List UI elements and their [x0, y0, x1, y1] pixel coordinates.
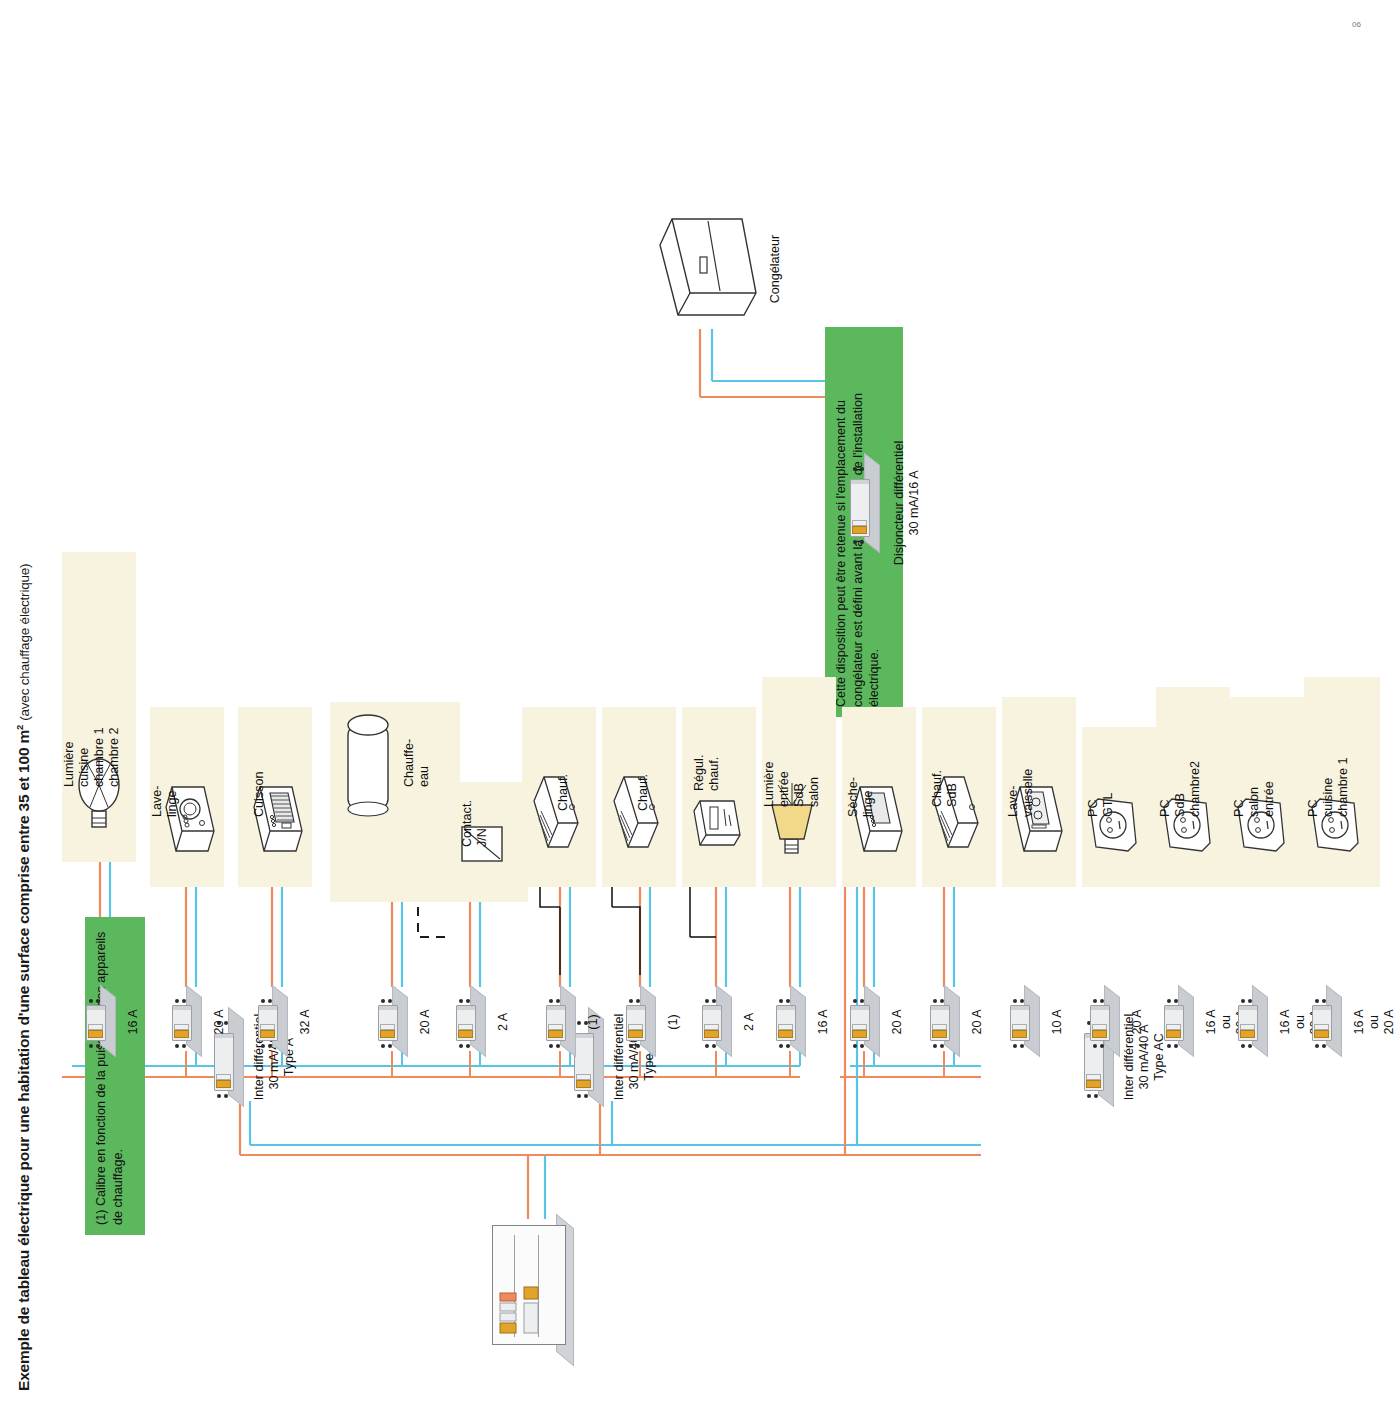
- breaker-contacteur-jn[interactable]: [454, 993, 488, 1051]
- device-lever[interactable]: [216, 1080, 231, 1088]
- device-test-button[interactable]: [1086, 1074, 1101, 1080]
- terminal: [1322, 999, 1326, 1003]
- device-handle[interactable]: [1166, 1024, 1181, 1030]
- device-lever[interactable]: [576, 1080, 591, 1088]
- terminal: [89, 999, 93, 1003]
- device-lever[interactable]: [628, 1030, 643, 1038]
- breaker-lumiere-entree[interactable]: [774, 993, 808, 1051]
- label-c15: PC salon entrée: [1232, 657, 1277, 817]
- device-lever[interactable]: [1314, 1030, 1329, 1038]
- device-handle[interactable]: [88, 1024, 103, 1030]
- breaker-pc-gtl[interactable]: [1088, 993, 1122, 1051]
- device-lever[interactable]: [1092, 1030, 1107, 1038]
- device-handle[interactable]: [704, 1024, 719, 1030]
- terminal: [853, 1044, 857, 1048]
- terminal: [1167, 999, 1171, 1003]
- device-handle[interactable]: [778, 1024, 793, 1030]
- terminal: [1315, 1044, 1319, 1048]
- device-lever[interactable]: [852, 526, 867, 534]
- terminal: [549, 999, 553, 1003]
- device-handle[interactable]: [458, 1024, 473, 1030]
- device-lever[interactable]: [174, 1030, 189, 1038]
- amp-label-c12: 10 A: [1050, 977, 1065, 1067]
- device-lever[interactable]: [380, 1030, 395, 1038]
- terminal: [89, 1044, 93, 1048]
- breaker-cuisson[interactable]: [256, 993, 290, 1051]
- breaker-pc-salon[interactable]: [1236, 993, 1270, 1051]
- device-lever[interactable]: [1240, 1030, 1255, 1038]
- terminal: [261, 999, 265, 1003]
- breaker-chauf-2[interactable]: [624, 993, 658, 1051]
- device-lever[interactable]: [458, 1030, 473, 1038]
- device-handle[interactable]: [628, 1024, 643, 1030]
- breaker-chauf-1[interactable]: [544, 993, 578, 1051]
- amp-label-c5: 2 A: [496, 977, 511, 1067]
- terminal: [712, 999, 716, 1003]
- device-test-button[interactable]: [576, 1074, 591, 1080]
- terminal: [381, 999, 385, 1003]
- label-c7: Chauf.: [636, 681, 651, 811]
- device-handle[interactable]: [1240, 1024, 1255, 1030]
- amp-label-c11: 20 A: [970, 977, 985, 1067]
- water-heater-icon: [336, 707, 398, 817]
- terminal: [1020, 1044, 1024, 1048]
- terminal: [577, 1094, 581, 1098]
- breaker-chauffe-eau[interactable]: [376, 993, 410, 1051]
- device-handle[interactable]: [852, 1024, 867, 1030]
- device-lever[interactable]: [1012, 1030, 1027, 1038]
- device-handle[interactable]: [1092, 1024, 1107, 1030]
- device-handle[interactable]: [932, 1024, 947, 1030]
- terminal: [1315, 999, 1319, 1003]
- terminal: [860, 540, 864, 544]
- terminal: [779, 1044, 783, 1048]
- terminal: [1013, 1044, 1017, 1048]
- amp-label-c2: 20 A: [212, 977, 227, 1067]
- device-lever[interactable]: [1166, 1030, 1181, 1038]
- device-lever[interactable]: [932, 1030, 947, 1038]
- thermostat-icon: [690, 795, 744, 851]
- breaker-lave-linge[interactable]: [170, 993, 204, 1051]
- terminal: [1094, 1094, 1098, 1098]
- breaker-chauf-sdb[interactable]: [928, 993, 962, 1051]
- device-test-button[interactable]: [852, 520, 867, 526]
- label-c16: PC cuisine chambre 1: [1306, 647, 1351, 817]
- device-lever[interactable]: [778, 1030, 793, 1038]
- breaker-regul-chauf[interactable]: [700, 993, 734, 1051]
- terminal: [96, 1044, 100, 1048]
- terminal: [556, 1044, 560, 1048]
- device-lever[interactable]: [88, 1030, 103, 1038]
- terminal: [1087, 1094, 1091, 1098]
- disjoncteur-differentiel-label: Disjoncteur différentiel 30 mA/16 A: [892, 405, 922, 601]
- breaker-lumiere-cuisine[interactable]: [84, 993, 118, 1051]
- congelateur-icon: [648, 209, 760, 329]
- terminal: [1241, 1044, 1245, 1048]
- device-lever[interactable]: [852, 1030, 867, 1038]
- device-test-button[interactable]: [216, 1074, 231, 1080]
- terminal: [268, 999, 272, 1003]
- device-lever[interactable]: [548, 1030, 563, 1038]
- label-c12: Lave- vaisselle: [1006, 667, 1036, 817]
- device-handle[interactable]: [1314, 1024, 1329, 1030]
- terminal: [459, 1044, 463, 1048]
- terminal: [175, 999, 179, 1003]
- device-handle[interactable]: [174, 1024, 189, 1030]
- device-handle[interactable]: [380, 1024, 395, 1030]
- disjoncteur-differentiel[interactable]: [848, 461, 882, 547]
- device-lever[interactable]: [704, 1030, 719, 1038]
- breaker-lave-vaisselle[interactable]: [1008, 993, 1042, 1051]
- device-handle[interactable]: [548, 1024, 563, 1030]
- breaker-seche-linge[interactable]: [848, 993, 882, 1051]
- terminal: [388, 999, 392, 1003]
- board-modules: [498, 1235, 562, 1335]
- breaker-pc-cuisine[interactable]: [1310, 993, 1344, 1051]
- terminal: [261, 1044, 265, 1048]
- device-handle[interactable]: [260, 1024, 275, 1030]
- terminal: [175, 1044, 179, 1048]
- terminal: [933, 999, 937, 1003]
- device-handle[interactable]: [1012, 1024, 1027, 1030]
- breaker-pc-sdb[interactable]: [1162, 993, 1196, 1051]
- device-lever[interactable]: [1086, 1080, 1101, 1088]
- terminal: [224, 1094, 228, 1098]
- device-lever[interactable]: [260, 1030, 275, 1038]
